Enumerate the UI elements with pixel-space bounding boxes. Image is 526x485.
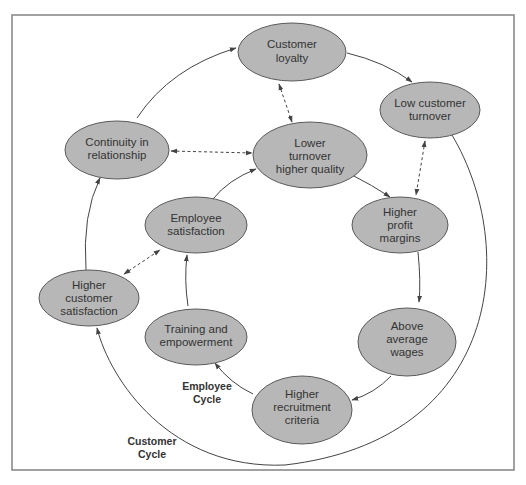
node-label: customer [65,292,112,304]
node-label: satisfaction [167,225,225,237]
node-label: Training and [164,323,228,335]
node-label: Lower [294,137,325,149]
node-label: higher quality [276,163,345,175]
node-label: profit [387,219,413,231]
cycle-label-line: Cycle [138,448,166,460]
cycle-label-line: Customer [127,435,176,447]
node-label: loyalty [276,52,309,64]
node-label: Employee [170,212,221,224]
node-label: turnover [409,110,451,122]
service-profit-cycle-diagram: Customer loyalty Low customer turnover C… [0,0,526,485]
node-label: average [386,333,428,345]
node-label: margins [380,232,421,244]
cycle-label-line: Cycle [193,393,221,405]
node-label: Above [391,320,424,332]
node-low-customer-turnover: Low customer turnover [380,82,480,138]
node-higher-recruitment-criteria: Higher recruitment criteria [252,376,352,444]
cycle-label-line: Employee [182,380,232,392]
node-label: wages [389,346,423,358]
node-lower-turnover-higher-quality: Lower turnover higher quality [253,122,367,188]
node-label: Higher [72,279,106,291]
node-label: turnover [289,150,331,162]
node-label: relationship [88,149,147,161]
node-above-average-wages: Above average wages [358,308,456,376]
node-label: empowerment [160,336,234,348]
node-label: Low customer [394,97,466,109]
node-label: recruitment [273,401,331,413]
node-label: Continuity in [85,136,148,148]
node-employee-satisfaction: Employee satisfaction [145,197,247,253]
node-continuity-in-relationship: Continuity in relationship [65,121,169,179]
node-higher-profit-margins: Higher profit margins [352,197,448,253]
node-customer-loyalty: Customer loyalty [238,23,346,81]
node-label: Customer [267,38,317,50]
node-training-and-empowerment: Training and empowerment [145,309,247,365]
node-label: Higher [383,206,417,218]
node-higher-customer-satisfaction: Higher customer satisfaction [39,270,139,326]
node-label: Higher [285,388,319,400]
node-label: criteria [285,414,320,426]
node-label: satisfaction [60,305,118,317]
